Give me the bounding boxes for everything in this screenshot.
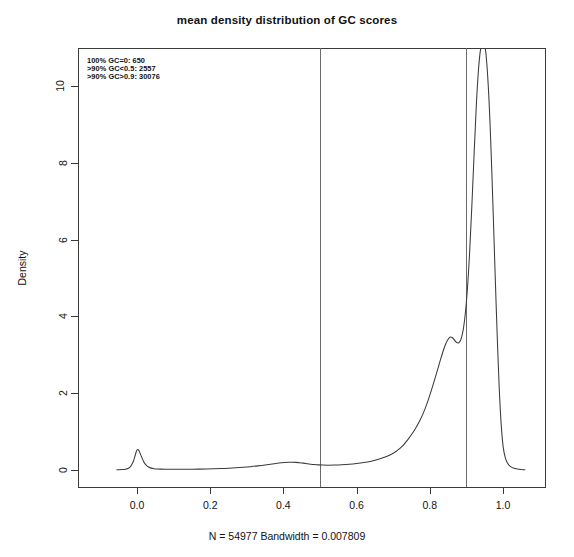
x-tick-label-5: 1.0 [496,499,511,511]
y-tick-label-3: 6 [60,234,66,246]
y-tick-label-1: 2 [60,387,66,399]
y-tick-label-text-1: 2 [57,390,69,396]
x-tick-label-3: 0.6 [349,499,364,511]
y-tick-label-2: 4 [60,310,66,322]
annotation-block: 100% GC=0: 650 >90% GC<0.5: 2557 >90% GC… [87,57,160,82]
y-tick-label-4: 8 [60,157,66,169]
y-tick-label-0: 0 [60,464,66,476]
y-tick-label-text-2: 4 [57,313,69,319]
y-tick-label-text-0: 0 [57,467,69,473]
annotation-line-3: >90% GC>0.9: 30076 [87,73,160,81]
x-tick-label-4: 0.8 [422,499,437,511]
y-axis-title-text: Density [16,250,28,285]
y-tick-label-text-5: 10 [54,80,66,92]
y-tick-label-5: 10 [54,80,66,92]
x-tick-label-1: 0.2 [203,499,218,511]
x-tick-label-0: 0.0 [130,499,145,511]
y-tick-label-text-3: 6 [57,237,69,243]
x-tick-label-2: 0.4 [276,499,291,511]
density-plot [0,0,574,557]
x-axis-title: N = 54977 Bandwidth = 0.007809 [0,530,574,542]
y-axis-title: Density [16,250,28,285]
chart-canvas: mean density distribution of GC scores 1… [0,0,574,557]
y-tick-label-text-4: 8 [57,160,69,166]
